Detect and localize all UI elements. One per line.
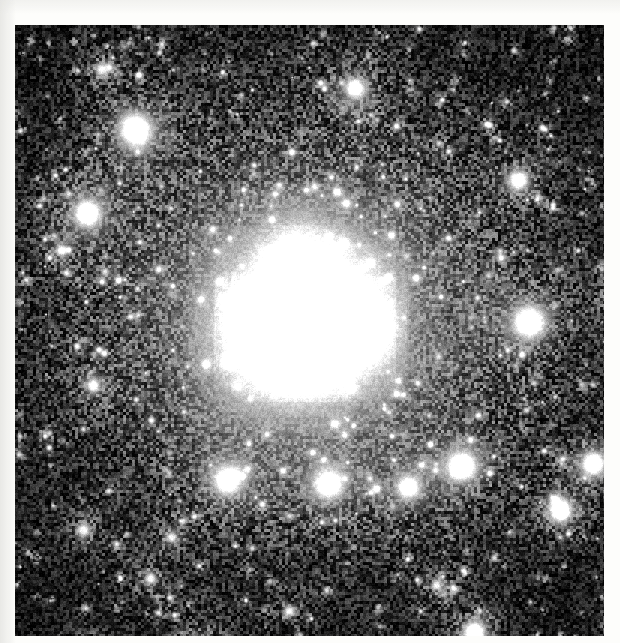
astronomical-plate <box>15 25 604 636</box>
image-caption <box>0 0 1 1</box>
sky-canvas <box>15 25 604 636</box>
image-title: Grayscale astronomical image of a galaxy… <box>0 0 1 1</box>
page-root: Grayscale astronomical image of a galaxy… <box>0 0 620 643</box>
